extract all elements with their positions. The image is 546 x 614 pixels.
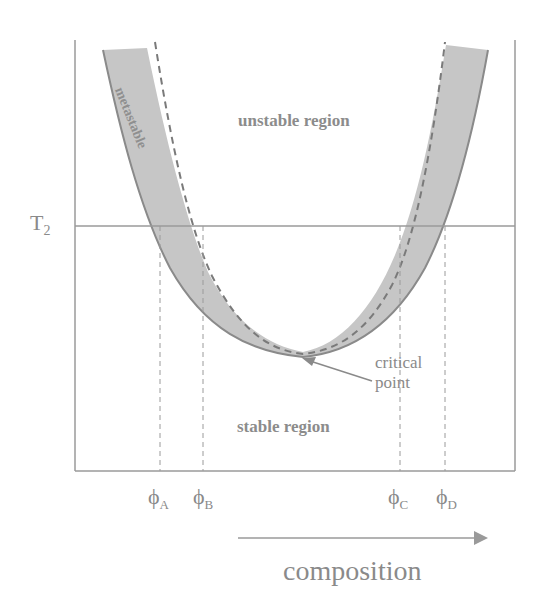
critical-point-label-line2: point xyxy=(375,373,422,393)
critical-point-arrow-line xyxy=(310,361,372,381)
critical-point-label: critical point xyxy=(375,353,422,393)
composition-arrowhead xyxy=(474,531,488,545)
phi-c-label: ϕC xyxy=(388,484,408,513)
critical-point-arrowhead xyxy=(302,357,316,366)
critical-point-label-line1: critical xyxy=(375,353,422,373)
phi-d-label: ϕD xyxy=(436,484,457,513)
unstable-region-label: unstable region xyxy=(238,111,350,131)
temperature-label-t2: T2 xyxy=(30,210,50,239)
stable-region-label: stable region xyxy=(237,417,330,437)
phi-b-label: ϕB xyxy=(193,484,213,513)
x-axis-label-composition: composition xyxy=(283,555,421,587)
phi-a-label: ϕA xyxy=(148,484,169,513)
phase-diagram-canvas xyxy=(0,0,546,614)
